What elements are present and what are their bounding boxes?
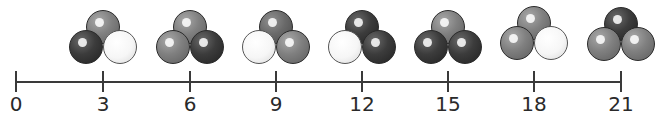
- tick-9: [275, 71, 277, 92]
- number-line-axis: [16, 81, 622, 83]
- ball-group-9: [241, 10, 311, 66]
- ball-group-18: [499, 6, 569, 62]
- tick-label: 6: [170, 92, 210, 116]
- ball-icon: [156, 30, 190, 64]
- tick-label: 9: [256, 92, 296, 116]
- tick-label: 12: [342, 92, 382, 116]
- ball-icon: [414, 30, 448, 64]
- tick-21: [620, 71, 622, 92]
- ball-group-15: [413, 10, 483, 66]
- ball-icon: [103, 30, 137, 64]
- ball-icon: [500, 26, 534, 60]
- ball-icon: [328, 30, 362, 64]
- ball-group-21: [586, 7, 656, 63]
- tick-label: 0: [0, 92, 36, 116]
- tick-6: [189, 71, 191, 92]
- tick-label: 15: [428, 92, 468, 116]
- ball-icon: [242, 30, 276, 64]
- ball-icon: [276, 30, 310, 64]
- ball-icon: [621, 27, 655, 61]
- ball-icon: [448, 30, 482, 64]
- ball-group-3: [68, 10, 138, 66]
- ball-icon: [587, 27, 621, 61]
- ball-icon: [69, 30, 103, 64]
- tick-18: [533, 71, 535, 92]
- tick-label: 3: [83, 92, 123, 116]
- ball-icon: [534, 26, 568, 60]
- number-line-diagram: 0 3 6 9 12 15 18 21: [0, 0, 660, 124]
- ball-icon: [362, 30, 396, 64]
- ball-group-12: [327, 10, 397, 66]
- tick-15: [447, 71, 449, 92]
- tick-label: 18: [514, 92, 554, 116]
- tick-0: [15, 71, 17, 92]
- ball-icon: [190, 30, 224, 64]
- tick-label: 21: [601, 92, 641, 116]
- tick-12: [361, 71, 363, 92]
- tick-3: [102, 71, 104, 92]
- ball-group-6: [155, 10, 225, 66]
